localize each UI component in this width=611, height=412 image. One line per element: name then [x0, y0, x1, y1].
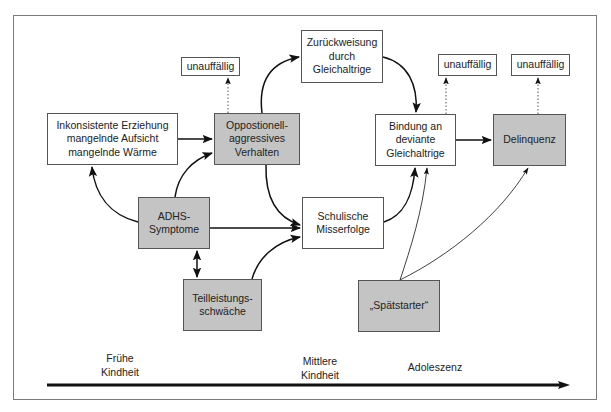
node-adhd-symptoms: ADHS- Symptome: [138, 197, 210, 249]
edge-adhd-oppositional: [175, 153, 212, 197]
node-learning-disorder: Teilleistungs- schwäche: [183, 279, 262, 331]
edge-oppositional-rejection: [261, 57, 299, 113]
timeline-stage-adolescence: Adoleszenz: [395, 361, 475, 375]
edge-adhd-inconsistent: [92, 167, 138, 222]
node-inconsistent-parenting: Inkonsistente Erziehung mangelnde Aufsic…: [47, 113, 178, 165]
edge-school-deviant: [384, 168, 415, 222]
timeline-stage-early-childhood: Frühe Kindheit: [90, 352, 150, 379]
edge-oppositional-school: [266, 165, 300, 225]
edge-late-delinquency: [400, 168, 528, 280]
node-delinquency: Delinquenz: [493, 114, 566, 166]
edge-learning-school: [252, 237, 300, 279]
node-peer-rejection: Zurückweisung durch Gleichaltrige: [301, 30, 383, 83]
node-school-failure: Schulische Misserfolge: [302, 197, 384, 249]
timeline-stage-middle-childhood: Mittlere Kindheit: [290, 355, 350, 382]
node-deviant-peers: Bindung an deviante Gleichaltrige: [375, 114, 456, 166]
node-unremarkable-2: unauffällig: [438, 54, 497, 76]
node-unremarkable-1: unauffällig: [181, 57, 240, 76]
node-unremarkable-3: unauffällig: [511, 54, 570, 76]
node-oppositional-aggressive: Oppostionell- aggressives Verhalten: [214, 113, 300, 165]
edge-late-deviant: [400, 168, 427, 280]
node-late-starter: „Spätstarter“: [358, 280, 440, 332]
edge-rejection-deviant: [383, 57, 416, 112]
